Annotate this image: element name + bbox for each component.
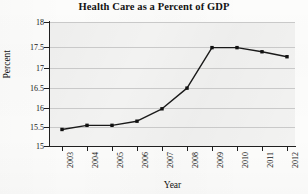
x-tick-mark [262,147,263,151]
x-tick-label-2007: 2007 [166,152,175,168]
y-tick-mark [44,127,49,128]
x-tick-label-2003: 2003 [66,152,75,168]
x-tick-mark [62,147,63,151]
y-tick-label-18: 18 [26,18,44,27]
gridline-16-5 [50,88,295,89]
y-tick-label-16-5: 16.5 [20,84,44,93]
y-tick-label-17-5: 17.5 [20,43,44,52]
y-tick-mark [44,47,49,48]
y-tick-label-15: 15 [26,142,44,151]
y-axis-line [49,21,50,147]
gridline-18 [50,22,295,23]
y-tick-label-16: 16 [26,104,44,113]
x-tick-label-2012: 2012 [291,152,300,168]
x-tick-label-2010: 2010 [241,152,250,168]
x-tick-mark [187,147,188,151]
y-tick-mark [44,108,49,109]
y-tick-mark [44,146,49,147]
gridline-17-5 [50,47,295,48]
x-tick-mark [162,147,163,151]
gridline-16 [50,108,295,109]
gridline-15-5 [50,127,295,128]
x-tick-label-2008: 2008 [191,152,200,168]
y-tick-label-15-5: 15.5 [20,123,44,132]
y-axis-label: Percent [2,50,12,79]
y-tick-mark [44,68,49,69]
y-tick-mark [44,22,49,23]
y-tick-label-17: 17 [26,64,44,73]
x-tick-mark [87,147,88,151]
x-tick-mark [137,147,138,151]
x-tick-label-2006: 2006 [141,152,150,168]
plot-area [50,22,295,146]
x-tick-label-2009: 2009 [216,152,225,168]
x-tick-mark [212,147,213,151]
y-tick-mark [44,88,49,89]
x-axis-label: Year [50,180,295,190]
x-tick-mark [112,147,113,151]
gridline-17 [50,68,295,69]
x-tick-label-2005: 2005 [116,152,125,168]
x-tick-label-2004: 2004 [91,152,100,168]
chart-title: Health Care as a Percent of GDP [0,1,308,12]
x-tick-label-2011: 2011 [266,152,275,168]
x-tick-mark [237,147,238,151]
x-tick-mark [287,147,288,151]
chart-figure: Health Care as a Percent of GDP 18 17.5 … [0,0,308,194]
